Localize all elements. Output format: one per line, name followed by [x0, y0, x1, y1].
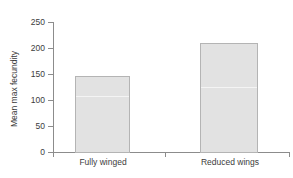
- x-category-label-fully-winged: Fully winged: [63, 158, 143, 167]
- y-tick-label-50: 50: [36, 122, 45, 131]
- y-tick-label-150: 150: [31, 70, 45, 79]
- bar-reduced-wings: [200, 43, 258, 153]
- y-axis-title: Mean max fecundity: [9, 29, 19, 149]
- bar-fully-winged: [75, 76, 130, 153]
- bar-inner-line-fully-winged: [76, 96, 129, 97]
- y-tick-label-200: 200: [31, 44, 45, 53]
- y-tick-label-0: 0: [40, 148, 45, 157]
- bar-inner-line-reduced-wings: [201, 87, 257, 88]
- y-axis-line: [53, 22, 54, 153]
- y-tick-label-250: 250: [31, 18, 45, 27]
- x-tick-right-edge: [289, 152, 290, 157]
- bar-chart: Mean max fecundity 250 200 150 100 50 0 …: [0, 0, 293, 178]
- y-tick-label-100: 100: [31, 96, 45, 105]
- x-tick-between-categories: [165, 152, 166, 157]
- x-tick-left-edge: [53, 152, 54, 157]
- x-category-label-reduced-wings: Reduced wings: [185, 158, 275, 167]
